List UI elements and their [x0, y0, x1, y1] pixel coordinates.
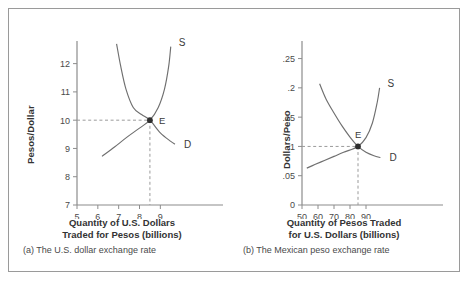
y-tick-label: 11 — [61, 87, 70, 97]
curve-label-D: D — [184, 139, 191, 150]
panel-caption-a: (a) The U.S. dollar exchange rate — [23, 245, 156, 255]
x-axis-label-b-line2: for U.S. Dollars (billions) — [289, 229, 400, 240]
y-tick-label: .2 — [287, 83, 295, 93]
curve-label-S: S — [179, 37, 186, 48]
x-axis-label-b-line1: Quantity of Pesos Traded — [287, 217, 402, 228]
equilibrium-point — [355, 144, 361, 150]
y-tick-label: 9 — [65, 144, 70, 154]
y-tick-label: 12 — [60, 59, 70, 69]
equilibrium-point — [147, 117, 153, 123]
curve-label-D: D — [389, 152, 396, 163]
curve-S — [102, 47, 171, 157]
equilibrium-label: E — [159, 115, 165, 126]
curve-D — [117, 44, 175, 144]
figure-container: Pesos/Dollar 56789789101112SDE Quantity … — [8, 8, 460, 272]
x-axis-label-b: Quantity of Pesos Traded for U.S. Dollar… — [231, 217, 457, 240]
chart-panel-a: Pesos/Dollar 56789789101112SDE Quantity … — [9, 9, 235, 271]
y-tick-label: 8 — [65, 172, 70, 182]
y-tick-label: 0 — [290, 200, 295, 210]
y-tick-label: 10 — [60, 116, 70, 126]
panel-caption-b: (b) The Mexican peso exchange rate — [243, 245, 389, 255]
y-tick-label: 7 — [65, 200, 70, 210]
plot-area-a: 56789789101112SDE — [9, 9, 235, 219]
equilibrium-label: E — [355, 129, 361, 140]
y-tick-label: .15 — [282, 113, 295, 123]
x-axis-label-a-line1: Quantity of U.S. Dollars — [69, 217, 175, 228]
curve-D — [320, 84, 381, 158]
y-tick-label: .25 — [282, 54, 295, 64]
chart-panel-b: Dollars/Peso 50607080900.05.1.15.2.25SDE… — [231, 9, 457, 271]
y-tick-label: .05 — [282, 171, 295, 181]
x-axis-label-a-line2: Traded for Pesos (billions) — [62, 229, 181, 240]
curve-label-S: S — [388, 78, 395, 89]
x-axis-label-a: Quantity of U.S. Dollars Traded for Peso… — [9, 217, 235, 240]
plot-area-b: 50607080900.05.1.15.2.25SDE — [231, 9, 457, 219]
y-tick-label: .1 — [287, 142, 295, 152]
